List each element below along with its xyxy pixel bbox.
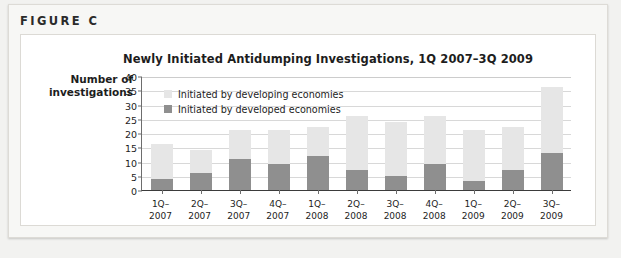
x-tick-label-quarter: 4Q– bbox=[412, 199, 456, 211]
y-tick-label: 35 bbox=[115, 86, 137, 97]
y-tick-label: 20 bbox=[115, 129, 137, 140]
y-tick-label: 10 bbox=[115, 157, 137, 168]
chart-legend: Initiated by developing economies Initia… bbox=[164, 87, 344, 117]
chart-card: Newly Initiated Antidumping Investigatio… bbox=[20, 34, 596, 226]
x-tick-label-year: 2007 bbox=[139, 211, 183, 223]
x-axis-labels: 1Q–20072Q–20073Q–20074Q–20071Q–20082Q–20… bbox=[141, 196, 571, 224]
x-tick-label: 4Q–2008 bbox=[412, 199, 456, 222]
x-tick-label-quarter: 1Q– bbox=[139, 199, 183, 211]
x-tick-label: 2Q–2007 bbox=[178, 199, 222, 222]
x-tick-label: 4Q–2007 bbox=[256, 199, 300, 222]
x-tick-mark bbox=[435, 190, 436, 194]
x-tick-label-year: 2007 bbox=[217, 211, 261, 223]
x-tick-label: 2Q–2008 bbox=[334, 199, 378, 222]
x-tick-mark bbox=[201, 190, 202, 194]
y-tick-label: 25 bbox=[115, 114, 137, 125]
x-tick-mark bbox=[513, 190, 514, 194]
x-tick-label: 3Q–2007 bbox=[217, 199, 261, 222]
x-tick-label-quarter: 3Q– bbox=[529, 199, 573, 211]
x-tick-label-quarter: 3Q– bbox=[217, 199, 261, 211]
x-tick-label-year: 2009 bbox=[451, 211, 495, 223]
x-tick-label-year: 2007 bbox=[256, 211, 300, 223]
x-tick-mark bbox=[474, 190, 475, 194]
x-tick-label: 1Q–2009 bbox=[451, 199, 495, 222]
figure-label: FIGURE C bbox=[20, 14, 99, 28]
x-tick-label-year: 2008 bbox=[295, 211, 339, 223]
x-tick-mark bbox=[357, 190, 358, 194]
x-tick-label-quarter: 2Q– bbox=[178, 199, 222, 211]
y-tick-mark bbox=[138, 191, 142, 192]
figure-label-bar: FIGURE C bbox=[20, 11, 99, 31]
figure-container: FIGURE C Newly Initiated Antidumping Inv… bbox=[0, 0, 621, 258]
x-tick-label: 1Q–2007 bbox=[139, 199, 183, 222]
legend-swatch-developing-icon bbox=[164, 90, 172, 98]
y-tick-label: 15 bbox=[115, 143, 137, 154]
legend-swatch-developed-icon bbox=[164, 105, 172, 113]
x-tick-label: 1Q–2008 bbox=[295, 199, 339, 222]
x-tick-label-quarter: 4Q– bbox=[256, 199, 300, 211]
legend-label-developed: Initiated by developed economies bbox=[178, 104, 341, 115]
legend-item-developing: Initiated by developing economies bbox=[164, 87, 344, 101]
y-tick-label: 0 bbox=[115, 186, 137, 197]
x-tick-label-year: 2008 bbox=[412, 211, 456, 223]
x-tick-mark bbox=[279, 190, 280, 194]
x-tick-label-quarter: 1Q– bbox=[295, 199, 339, 211]
chart-title: Newly Initiated Antidumping Investigatio… bbox=[21, 52, 595, 66]
x-tick-mark bbox=[162, 190, 163, 194]
y-tick-label: 40 bbox=[115, 72, 137, 83]
x-tick-mark bbox=[240, 190, 241, 194]
x-tick-label-quarter: 3Q– bbox=[373, 199, 417, 211]
x-tick-label: 3Q–2009 bbox=[529, 199, 573, 222]
x-tick-mark bbox=[552, 190, 553, 194]
x-tick-label: 2Q–2009 bbox=[490, 199, 534, 222]
x-tick-label-year: 2009 bbox=[529, 211, 573, 223]
y-tick-label: 5 bbox=[115, 171, 137, 182]
x-tick-label: 3Q–2008 bbox=[373, 199, 417, 222]
x-tick-label-quarter: 2Q– bbox=[490, 199, 534, 211]
x-tick-label-year: 2009 bbox=[490, 211, 534, 223]
x-tick-label-year: 2008 bbox=[334, 211, 378, 223]
y-tick-label: 30 bbox=[115, 100, 137, 111]
legend-label-developing: Initiated by developing economies bbox=[178, 89, 344, 100]
x-tick-label-quarter: 1Q– bbox=[451, 199, 495, 211]
legend-item-developed: Initiated by developed economies bbox=[164, 102, 344, 116]
x-tick-label-year: 2008 bbox=[373, 211, 417, 223]
x-tick-label-year: 2007 bbox=[178, 211, 222, 223]
x-tick-mark bbox=[318, 190, 319, 194]
x-tick-label-quarter: 2Q– bbox=[334, 199, 378, 211]
x-tick-mark bbox=[396, 190, 397, 194]
